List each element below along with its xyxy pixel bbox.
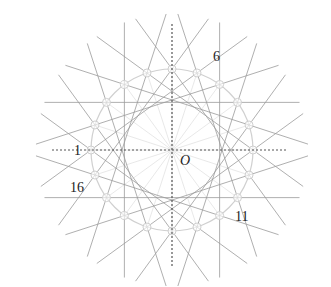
point-label-6: 6	[213, 50, 220, 64]
point-marker	[234, 194, 242, 202]
diagram-canvas: O 1 6 11 16	[0, 0, 331, 287]
point-marker	[102, 98, 110, 106]
spoke-line	[124, 150, 172, 216]
point-marker	[234, 98, 242, 106]
point-marker	[91, 171, 99, 179]
point-marker	[193, 69, 201, 77]
chord-line	[65, 65, 308, 144]
point-label-1: 1	[74, 144, 81, 158]
point-marker	[143, 69, 151, 77]
spoke-line	[95, 150, 172, 175]
spoke-line	[147, 73, 172, 150]
chord-line	[36, 65, 279, 144]
chord-line	[87, 14, 166, 257]
geometry-figure	[0, 0, 331, 287]
spoke-line	[172, 102, 238, 150]
center-label: O	[180, 154, 190, 168]
point-marker	[245, 121, 253, 129]
spoke-line	[124, 84, 172, 150]
spoke-line	[172, 84, 220, 150]
point-marker	[102, 194, 110, 202]
spoke-line	[106, 150, 172, 198]
spoke-line	[172, 125, 249, 150]
point-marker	[216, 212, 224, 220]
point-marker	[193, 223, 201, 231]
point-marker	[143, 223, 151, 231]
point-marker	[120, 80, 128, 88]
point-marker	[91, 121, 99, 129]
spoke-line	[172, 73, 197, 150]
chord-line	[87, 43, 166, 286]
point-marker	[120, 212, 128, 220]
point-label-16: 16	[70, 181, 84, 195]
point-marker	[216, 80, 224, 88]
point-marker	[245, 171, 253, 179]
spoke-line	[147, 150, 172, 227]
spoke-line	[95, 125, 172, 150]
spoke-line	[106, 102, 172, 150]
point-label-11: 11	[235, 210, 248, 224]
